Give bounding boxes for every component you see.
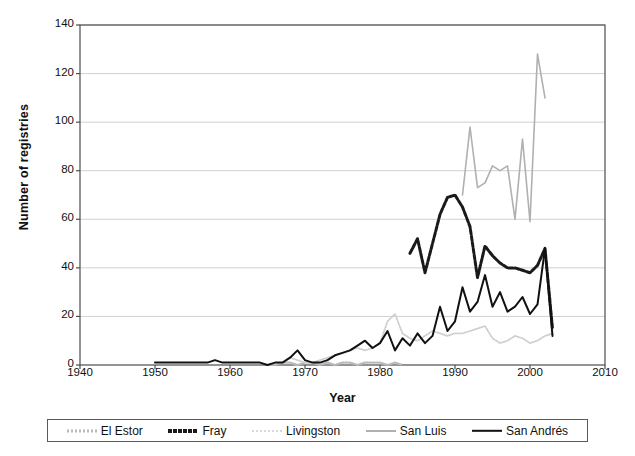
y-tick-label: 120 (36, 66, 74, 78)
legend-item[interactable]: El Estor (67, 424, 143, 438)
y-tick-label: 40 (36, 260, 74, 272)
dashed-dark-line-icon (168, 426, 198, 436)
x-axis-label: Year (80, 391, 605, 405)
legend-label: San Luis (400, 424, 447, 438)
x-tick-label: 1960 (200, 366, 260, 378)
legend-label: Fray (202, 424, 226, 438)
chart-legend: El EstorFrayLivingstonSan LuisSan Andrés (47, 419, 588, 442)
plot-frame (80, 25, 605, 365)
legend-label: El Estor (101, 424, 143, 438)
solid-black-line-icon (472, 426, 502, 436)
y-tick-label: 20 (36, 308, 74, 320)
legend-label: San Andrés (506, 424, 568, 438)
legend-item[interactable]: San Andrés (472, 424, 568, 438)
x-tick-label: 1940 (50, 366, 110, 378)
x-tick-label: 2010 (575, 366, 635, 378)
legend-label: Livingston (286, 424, 340, 438)
chart-figure: Number of registries 020406080100120140 … (0, 0, 635, 456)
series-line-san-luis (463, 54, 546, 222)
y-tick-label: 80 (36, 163, 74, 175)
x-tick-label: 1950 (125, 366, 185, 378)
dotted-light-line-icon (67, 426, 97, 436)
legend-item[interactable]: Fray (168, 424, 226, 438)
plot-area (0, 0, 635, 456)
y-tick-label: 140 (36, 17, 74, 29)
x-tick-label: 1990 (425, 366, 485, 378)
x-tick-label: 2000 (500, 366, 560, 378)
y-axis-tick-labels: 020406080100120140 (0, 0, 74, 456)
x-tick-label: 1980 (350, 366, 410, 378)
legend-item[interactable]: San Luis (366, 424, 447, 438)
solid-gray-line-icon (366, 426, 396, 436)
legend-item[interactable]: Livingston (252, 424, 340, 438)
series-line-san-andr-s (155, 248, 553, 365)
y-tick-label: 60 (36, 211, 74, 223)
x-tick-label: 1970 (275, 366, 335, 378)
y-tick-label: 100 (36, 114, 74, 126)
series-line-fray (410, 195, 553, 329)
dotted-gray-line-icon (252, 426, 282, 436)
